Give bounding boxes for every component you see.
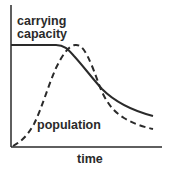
carrying-capacity-label-line2: capacity xyxy=(17,28,67,41)
x-axis-label: time xyxy=(77,153,103,166)
carrying-capacity-label: carrying capacity xyxy=(17,15,67,41)
population-label: population xyxy=(37,119,101,132)
carrying-capacity-line xyxy=(11,45,153,116)
carrying-capacity-diagram: carrying capacity population time xyxy=(0,0,171,171)
